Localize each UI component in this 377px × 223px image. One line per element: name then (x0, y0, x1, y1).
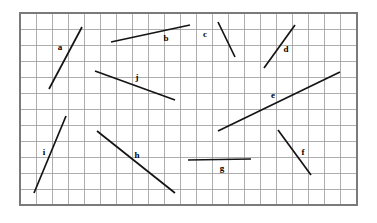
line-segment-h (97, 131, 175, 193)
figure-canvas (0, 0, 377, 223)
segment-label-c: c (203, 30, 207, 39)
segment-label-b: b (163, 34, 168, 43)
line-segment-a (49, 27, 82, 89)
segment-label-j: j (136, 73, 139, 82)
line-segment-g (188, 159, 251, 160)
segment-label-f: f (302, 148, 305, 157)
segment-label-e: e (271, 91, 275, 100)
line-segment-f (278, 130, 311, 175)
segment-label-d: d (283, 45, 288, 54)
line-segment-e (218, 72, 340, 131)
line-segment-d (264, 25, 295, 68)
segment-label-g: g (220, 164, 225, 173)
segment-label-i: i (43, 148, 46, 157)
segment-label-a: a (58, 43, 63, 52)
segment-label-h: h (134, 151, 139, 160)
line-segment-c (218, 22, 235, 57)
line-segment-i (34, 116, 66, 193)
segments-group (34, 22, 340, 193)
line-segment-b (111, 25, 190, 42)
line-segments-figure: abcdefghij (0, 0, 377, 223)
grid-lines (20, 13, 357, 205)
